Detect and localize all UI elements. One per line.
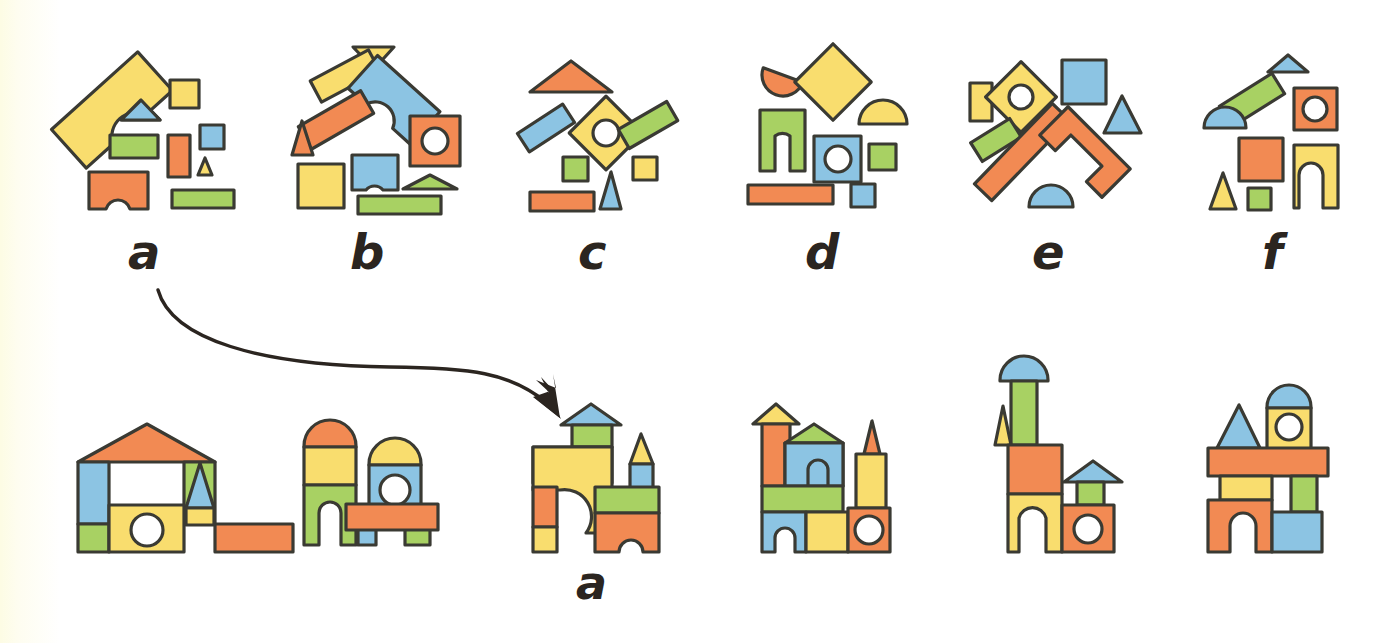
block-set-a[interactable] [52,52,234,209]
set-label-a: a [128,228,159,276]
set-label-b: b [350,228,383,276]
set-label-e: e [1032,228,1064,276]
structure-5[interactable] [995,356,1122,552]
block-set-b[interactable] [292,47,460,214]
structure-1[interactable] [78,424,293,552]
structure-label-a: a [576,560,606,606]
match-arrow [158,290,561,419]
blocks-illustration [0,0,1394,643]
worksheet-page: a b c d e f a [0,0,1394,643]
set-label-d: d [805,228,838,276]
block-set-d[interactable] [748,44,907,207]
illustration-stage: a b c d e f a [0,0,1394,643]
block-set-f[interactable] [1204,55,1338,210]
block-set-c[interactable] [517,61,677,211]
structure-6[interactable] [1208,385,1328,552]
structure-4[interactable] [753,404,890,552]
structure-3[interactable] [533,404,659,552]
set-label-c: c [578,228,605,276]
block-set-e[interactable] [970,60,1141,207]
structure-2[interactable] [304,420,438,545]
set-label-f: f [1262,228,1282,276]
